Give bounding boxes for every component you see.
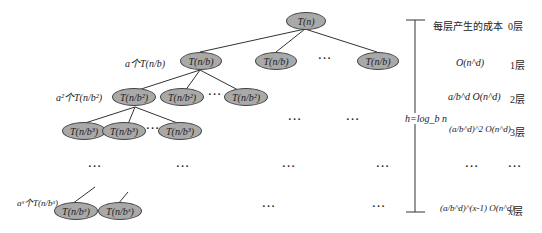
tree-ellipsis: ···	[346, 113, 360, 125]
level-label: 3层	[510, 124, 525, 139]
last-level-annotation: aˣ个T(n/bˣ)	[17, 196, 58, 209]
level1-node: T(n/b)	[357, 52, 399, 70]
tree-ellipsis: ···	[88, 160, 102, 172]
tree-ellipsis: ···	[288, 113, 302, 125]
cost-value: O(n^d)	[456, 57, 484, 68]
level1-node: T(n/b)	[180, 52, 222, 70]
tree-edges	[0, 0, 542, 233]
level1-node: T(n/b)	[255, 52, 297, 70]
level2-node: T(n/b²)	[112, 88, 156, 106]
cost-value: a/b^d O(n^d)	[448, 91, 501, 102]
level2-node: T(n/b²)	[224, 88, 268, 106]
level-label: 1层	[510, 57, 525, 72]
level2-annotation: a²个T(n/b²)	[56, 89, 102, 104]
last-level-node: T(n/bˣ)	[98, 202, 142, 220]
level-label: x层	[508, 203, 523, 218]
level3-node: T(n/b³)	[62, 122, 106, 140]
cost-ellipsis: ···	[465, 160, 479, 172]
cost-value: (a/b^d)^2 O(n^d)	[449, 124, 511, 134]
tree-ellipsis: ···	[372, 200, 386, 212]
cost-header: 每层产生的成本	[433, 18, 503, 33]
cost-value: (a/b^d)^(x-1) O(n^d)	[440, 203, 515, 213]
level3-node: T(n/b³)	[102, 122, 146, 140]
tree-ellipsis: ···	[176, 160, 190, 172]
height-label: h=log_b n	[405, 113, 447, 124]
level-label: 0层	[508, 18, 523, 33]
last-level-node: T(n/bˣ)	[54, 202, 98, 220]
tree-ellipsis: ···	[376, 160, 390, 172]
level1-ellipsis: ···	[318, 52, 332, 64]
level-label: 2层	[510, 91, 525, 106]
tree-ellipsis: ···	[282, 160, 296, 172]
root-node: T(n)	[286, 12, 326, 30]
level-ellipsis: ···	[508, 160, 522, 172]
level3-node: T(n/b³)	[158, 122, 202, 140]
level2-ellipsis: ···	[208, 88, 222, 100]
level1-annotation: a个T(n/b)	[125, 55, 165, 70]
level2-node: T(n/b²)	[160, 88, 204, 106]
tree-ellipsis: ···	[262, 200, 276, 212]
